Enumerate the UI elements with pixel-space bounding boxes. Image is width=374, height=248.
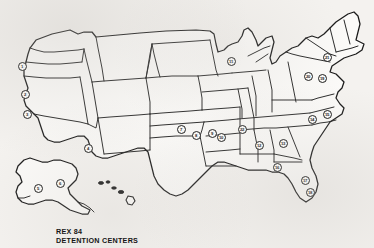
map-marker-6[interactable]: 6 bbox=[56, 179, 65, 188]
map-marker-7[interactable]: 7 bbox=[177, 125, 186, 134]
map-marker-14[interactable]: 14 bbox=[308, 115, 317, 124]
map-marker-10[interactable]: 10 bbox=[217, 133, 226, 142]
map-marker-8[interactable]: 8 bbox=[192, 131, 201, 140]
map-marker-17[interactable]: 17 bbox=[301, 176, 310, 185]
map-marker-20[interactable]: 20 bbox=[304, 72, 313, 81]
map-marker-9[interactable]: 9 bbox=[208, 129, 217, 138]
map-marker-2[interactable]: 2 bbox=[21, 90, 30, 99]
map-caption: REX 84 DETENTION CENTERS bbox=[56, 227, 138, 246]
map-page: 12345678910111213141516171819202122 REX … bbox=[0, 0, 374, 248]
detention-center-markers: 12345678910111213141516171819202122 bbox=[0, 0, 374, 248]
map-marker-3[interactable]: 3 bbox=[23, 110, 32, 119]
map-marker-11[interactable]: 11 bbox=[227, 57, 236, 66]
map-marker-18[interactable]: 18 bbox=[306, 188, 315, 197]
map-marker-1[interactable]: 1 bbox=[18, 62, 27, 71]
map-marker-4[interactable]: 4 bbox=[84, 144, 93, 153]
caption-line-1: REX 84 bbox=[56, 227, 138, 236]
map-marker-19[interactable]: 19 bbox=[318, 74, 327, 83]
map-marker-5[interactable]: 5 bbox=[34, 184, 43, 193]
map-marker-15[interactable]: 15 bbox=[323, 110, 332, 119]
map-marker-22[interactable]: 22 bbox=[238, 125, 247, 134]
caption-line-2: DETENTION CENTERS bbox=[56, 236, 138, 245]
map-marker-16[interactable]: 16 bbox=[273, 163, 282, 172]
map-marker-13[interactable]: 13 bbox=[279, 139, 288, 148]
map-marker-21[interactable]: 21 bbox=[323, 53, 332, 62]
map-marker-12[interactable]: 12 bbox=[255, 141, 264, 150]
